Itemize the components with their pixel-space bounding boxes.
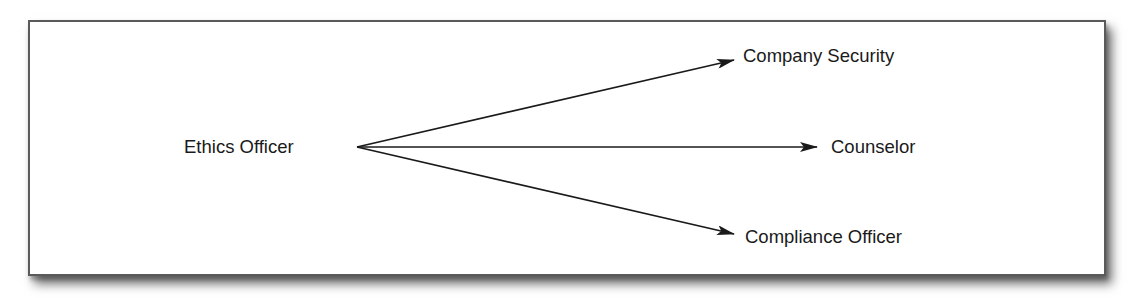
node-company-security: Company Security: [743, 45, 894, 67]
node-ethics-officer: Ethics Officer: [184, 136, 294, 158]
node-compliance-officer: Compliance Officer: [745, 226, 902, 248]
node-counselor: Counselor: [831, 136, 915, 158]
